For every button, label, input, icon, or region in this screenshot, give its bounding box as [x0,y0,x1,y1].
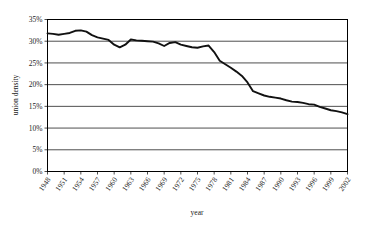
y-tick-label: 25% [29,59,43,68]
y-tick-label: 5% [33,145,43,154]
x-axis-title: year [191,208,204,217]
y-tick-label: 10% [29,124,43,133]
y-tick-label: 0% [33,167,43,176]
plot-area-frame [48,20,348,172]
y-tick-label: 30% [29,37,43,46]
y-axis-title: union density [11,74,20,115]
y-tick-label: 15% [29,102,43,111]
y-tick-label: 20% [29,80,43,89]
union-density-chart: 0%5%10%15%20%25%30%35% 19481951195419571… [0,0,367,230]
chart-canvas: 0%5%10%15%20%25%30%35% 19481951195419571… [0,0,367,230]
y-tick-label: 35% [29,15,43,24]
